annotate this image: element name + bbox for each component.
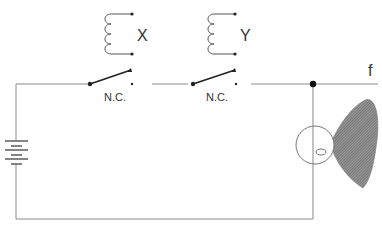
relay-x-label: X [137,27,148,44]
nc-contact-x-icon [88,68,133,86]
relay-coil-x-icon [105,12,134,55]
nc-contact-y-label: N.C. [206,91,228,103]
nc-contact-x-label: N.C. [104,91,126,103]
light-beam-icon [333,99,378,188]
junction-node [310,81,316,87]
battery-icon [5,141,28,164]
output-label: f [368,62,373,79]
relay-y-label: Y [240,27,251,44]
nc-contact-y-icon [191,68,237,86]
relay-coil-y-icon [208,12,237,55]
circuit-diagram: X Y N.C. N.C. f [0,0,382,229]
lamp-icon [296,126,334,164]
